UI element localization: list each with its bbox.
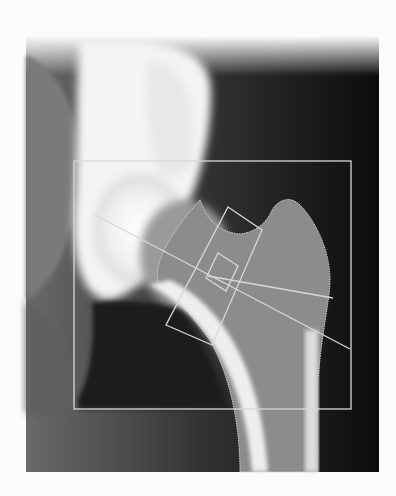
dxa-hip-scan [0,0,396,496]
